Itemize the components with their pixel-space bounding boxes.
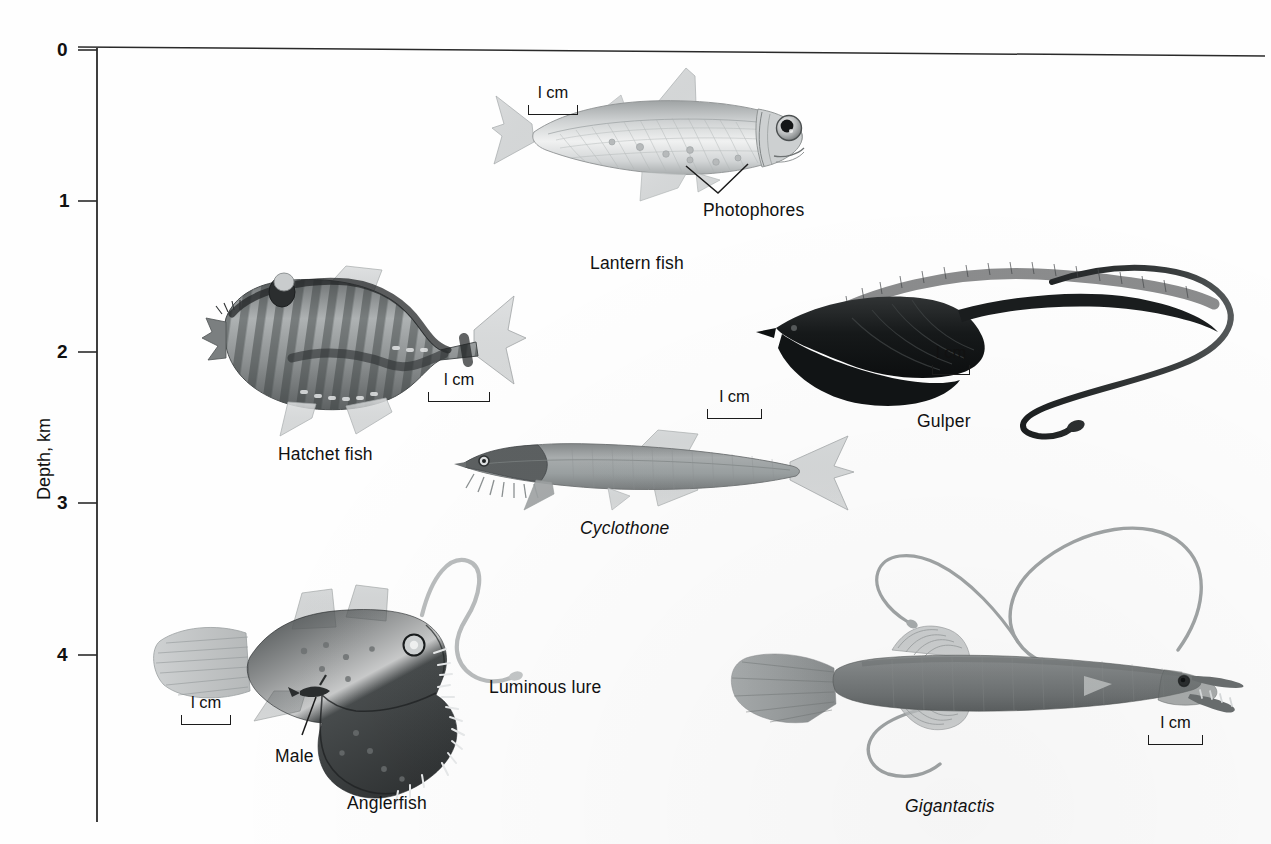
- callout-male: Male: [275, 746, 314, 767]
- cyclothone-snout: [454, 462, 466, 468]
- anglerfish-body: [247, 610, 457, 799]
- cyclothone-pectoral-fin: [524, 480, 554, 510]
- lantern-pelvic-fin: [696, 173, 720, 192]
- gulper-snout-tip: [756, 328, 776, 338]
- scale-bar-bracket: [707, 409, 762, 419]
- hatchet-pelvic-fin: [280, 402, 316, 436]
- specimen-label-cyclothone: Cyclothone: [580, 518, 670, 539]
- callout-photophores: Photophores: [703, 200, 804, 221]
- scale-bar-bracket: [428, 392, 490, 402]
- gigantactis-dorsal-fin: [892, 626, 970, 658]
- scale-bar-lantern: l cm: [528, 84, 578, 115]
- hatchet-fish-illustration: [196, 262, 546, 442]
- scale-bar-label: l cm: [428, 371, 490, 388]
- cyclothone-pupil: [482, 459, 486, 463]
- callout-luminous-lure: Luminous lure: [489, 677, 602, 698]
- axis-tick-label-4: 4: [57, 644, 68, 666]
- scale-bar-hatchet: l cm: [428, 371, 490, 402]
- cyclothone-pelvic-fin: [608, 488, 630, 510]
- cyclothone-caudal-fin: [790, 436, 854, 510]
- scale-bar-label: l cm: [707, 388, 762, 405]
- scale-bar-bracket: [1148, 735, 1203, 745]
- lantern-anal-fin: [640, 172, 686, 201]
- scale-bar-label: l cm: [932, 344, 970, 361]
- hatchet-snout: [202, 318, 226, 360]
- scale-bar-cyclothone: l cm: [707, 388, 762, 419]
- scale-bar-anglerfish: l cm: [181, 694, 231, 725]
- scale-bar-gigantactis: l cm: [1148, 714, 1203, 745]
- sea-surface-line: [78, 47, 1265, 56]
- figure-canvas: 0 1 2 3 4 Depth, km: [0, 0, 1271, 844]
- specimen-label-hatchet-fish: Hatchet fish: [278, 444, 373, 465]
- axis-title: Depth, km: [34, 418, 55, 500]
- specimen-label-lantern-fish: Lantern fish: [590, 253, 684, 274]
- axis-tick-label-3: 3: [57, 492, 68, 514]
- specimen-label-gulper: Gulper: [917, 411, 971, 432]
- scale-bar-bracket: [528, 105, 578, 115]
- hatchet-eye-lens: [274, 273, 294, 291]
- gigantactis-pupil: [1181, 678, 1186, 683]
- gigantactis-illustration: [712, 518, 1262, 818]
- lantern-dorsal-fin: [658, 68, 696, 104]
- specimen-label-gigantactis: Gigantactis: [905, 796, 995, 817]
- gulper-trunk: [958, 294, 1218, 332]
- lantern-eye-glint: [789, 129, 793, 133]
- scale-bar-gulper: l cm: [932, 344, 970, 375]
- anglerfish-pupil: [410, 641, 418, 649]
- axis-tick-label-0: 0: [57, 39, 68, 61]
- axis-tick-label-1: 1: [59, 190, 70, 212]
- scale-bar-label: l cm: [181, 694, 231, 711]
- scale-bar-label: l cm: [528, 84, 578, 101]
- axis-tick-label-2: 2: [57, 341, 68, 363]
- specimen-label-anglerfish: Anglerfish: [347, 793, 427, 814]
- scale-bar-label: l cm: [1148, 714, 1203, 731]
- scale-bar-bracket: [181, 715, 231, 725]
- scale-bar-bracket: [932, 365, 970, 375]
- gulper-eye: [791, 325, 797, 331]
- hatchet-peduncle-band: [464, 338, 468, 362]
